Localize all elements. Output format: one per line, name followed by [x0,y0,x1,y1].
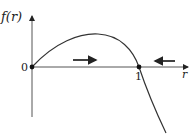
fixed-point-0 [30,65,35,70]
origin-label: 0 [21,61,28,74]
phase-diagram: f(r) 0 1 r [0,0,196,137]
root-label: 1 [135,70,142,83]
x-axis-label: r [182,68,188,81]
f-curve [32,34,166,133]
y-axis-label: f(r) [0,9,22,24]
fixed-point-1 [137,65,142,70]
